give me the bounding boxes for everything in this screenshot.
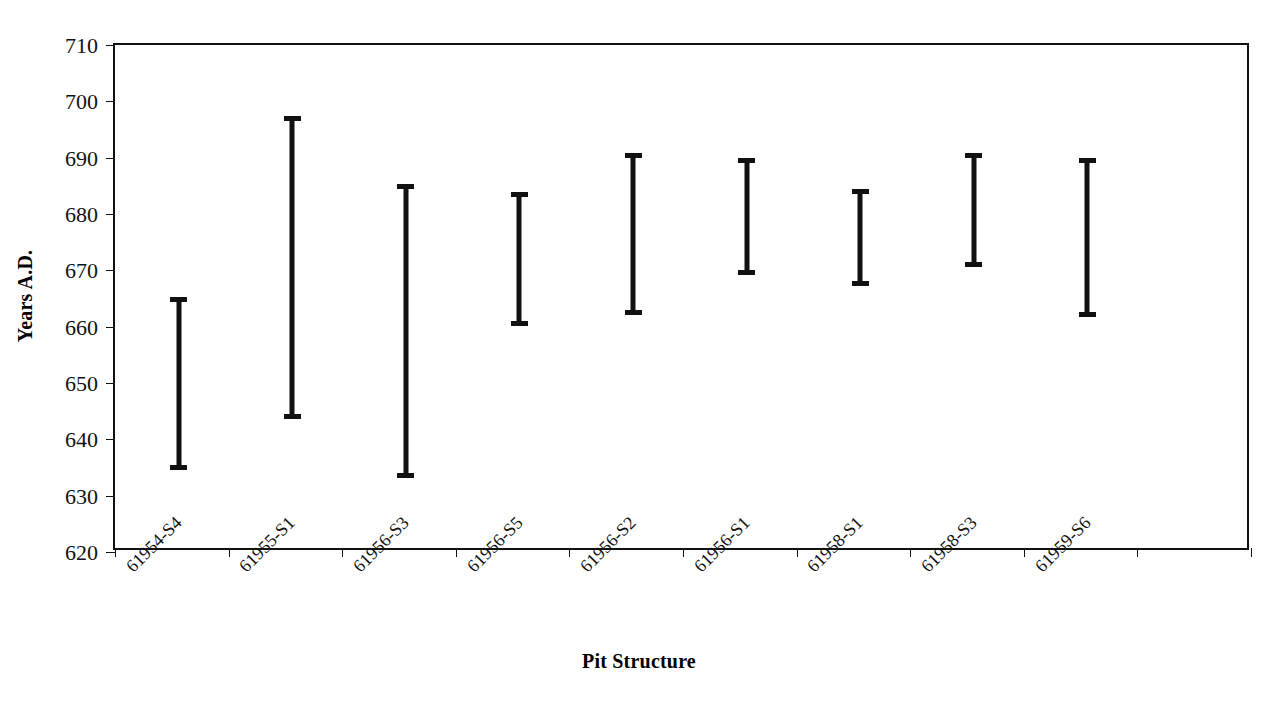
y-tick-650: 650 [106, 383, 115, 384]
x-axis-title: Pit Structure [0, 650, 1278, 673]
x-tick [342, 548, 343, 557]
y-tick-label: 660 [65, 317, 98, 339]
x-tick [115, 548, 116, 557]
y-tick-660: 660 [106, 327, 115, 328]
y-tick-670: 670 [106, 270, 115, 271]
y-tick-label: 710 [65, 35, 98, 57]
y-tick-label: 620 [65, 542, 98, 564]
plot-area: 710700690680670660650640630620 [113, 43, 1249, 550]
y-tick-680: 680 [106, 214, 115, 215]
y-tick-label: 630 [65, 486, 98, 508]
x-tick [797, 548, 798, 557]
x-tick [229, 548, 230, 557]
range-bar [176, 299, 181, 468]
y-tick-620: 620 [106, 552, 115, 553]
range-bar [971, 155, 976, 265]
y-tick-690: 690 [106, 158, 115, 159]
x-tick [569, 548, 570, 557]
y-tick-640: 640 [106, 439, 115, 440]
range-bar [290, 118, 295, 417]
y-axis-title: Years A.D. [14, 250, 37, 343]
y-tick-label: 700 [65, 91, 98, 113]
y-tick-label: 680 [65, 204, 98, 226]
range-bar [631, 155, 636, 313]
range-bar [403, 186, 408, 476]
x-tick [1137, 548, 1138, 557]
y-tick-700: 700 [106, 101, 115, 102]
y-tick-label: 640 [65, 429, 98, 451]
x-tick [1251, 548, 1252, 557]
y-tick-label: 690 [65, 148, 98, 170]
range-bar [858, 191, 863, 284]
range-bar [517, 194, 522, 324]
x-tick [1024, 548, 1025, 557]
x-tick [683, 548, 684, 557]
range-bar [1085, 160, 1090, 315]
range-bar [744, 160, 749, 273]
y-tick-710: 710 [106, 45, 115, 46]
x-tick [910, 548, 911, 557]
y-tick-label: 670 [65, 260, 98, 282]
x-tick [456, 548, 457, 557]
y-tick-630: 630 [106, 496, 115, 497]
chart-container: Years A.D. 71070069068067066065064063062… [0, 0, 1278, 704]
y-tick-label: 650 [65, 373, 98, 395]
